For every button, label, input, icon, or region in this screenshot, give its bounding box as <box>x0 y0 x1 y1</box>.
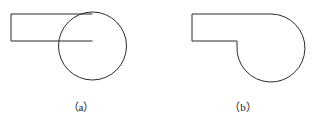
panel-b-outline <box>192 14 305 82</box>
caption-panel-b: （b） <box>162 98 324 114</box>
panel-a-circle <box>59 12 127 80</box>
panel-a-group <box>11 12 127 80</box>
panel-b-group <box>192 14 305 82</box>
caption-panel-a: （a） <box>0 98 162 114</box>
